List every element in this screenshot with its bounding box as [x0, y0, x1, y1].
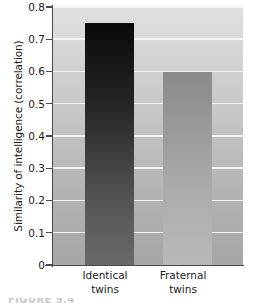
y-tick-label-0: 0	[5, 260, 45, 270]
y-tick-label-0.2: 0.2	[5, 195, 45, 205]
y-tick-label-0.7: 0.7	[5, 34, 45, 44]
y-tick-mark	[46, 168, 53, 169]
y-tick-mark	[46, 6, 53, 7]
y-tick-mark	[46, 39, 53, 40]
plot-area	[53, 7, 243, 265]
x-category-label-fraternal-twins: Fraternal twins	[137, 269, 229, 296]
bar-fraternal-twins	[163, 72, 212, 266]
gridline	[53, 6, 243, 8]
category-label-line: Fraternal	[137, 269, 229, 283]
gridline	[53, 232, 243, 234]
y-tick-mark	[46, 200, 53, 201]
y-tick-label-0.8: 0.8	[5, 2, 45, 12]
category-label-line: twins	[137, 283, 229, 297]
gridline	[53, 135, 243, 137]
x-axis-line	[45, 265, 244, 266]
gridline	[53, 103, 243, 105]
y-tick-mark	[46, 232, 53, 233]
y-tick-label-0.1: 0.1	[5, 228, 45, 238]
bar-identical-twins	[85, 23, 134, 265]
y-tick-label-0.5: 0.5	[5, 99, 45, 109]
y-tick-label-0.3: 0.3	[5, 163, 45, 173]
gridline	[53, 200, 243, 202]
gridline	[53, 167, 243, 169]
y-tick-label-0.6: 0.6	[5, 66, 45, 76]
figure-container: Similarity of intelligence (correlation)…	[0, 0, 253, 305]
gridline	[53, 71, 243, 73]
figure-caption-text: FIGURE 9.4	[8, 298, 75, 305]
y-tick-mark	[46, 103, 53, 104]
figure-caption-clipped: FIGURE 9.4	[8, 298, 128, 305]
gridline	[53, 38, 243, 40]
y-tick-mark	[46, 71, 53, 72]
y-tick-mark	[46, 135, 53, 136]
y-tick-mark	[46, 264, 53, 265]
y-tick-label-0.4: 0.4	[5, 131, 45, 141]
